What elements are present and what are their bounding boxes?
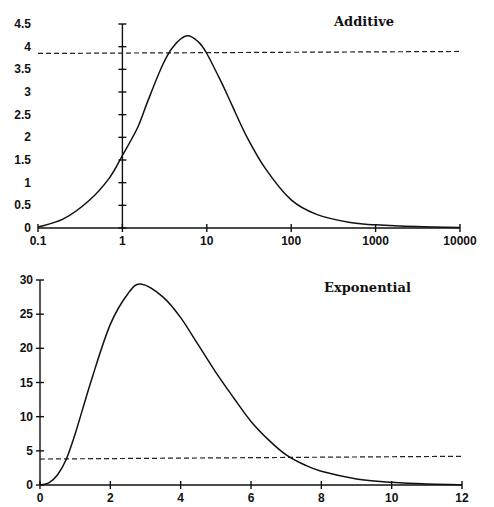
- additive-x-tick-label: 1000: [362, 234, 389, 248]
- exponential-y-tick-label: 10: [20, 410, 34, 424]
- additive-y-tick-label: 4: [24, 40, 31, 54]
- exponential-x-tick-label: 6: [248, 491, 255, 505]
- exponential-chart: 024681012051015202530 Exponential: [20, 273, 469, 505]
- additive-y-tick-label: 0.5: [14, 198, 31, 212]
- exponential-y-tick-label: 5: [26, 444, 33, 458]
- additive-y-tick-label: 0: [24, 221, 31, 235]
- additive-curve: [38, 36, 460, 228]
- exponential-x-tick-label: 2: [107, 491, 114, 505]
- exponential-curve: [40, 284, 462, 485]
- additive-title: Additive: [333, 14, 394, 29]
- exponential-axes: [40, 280, 462, 485]
- additive-y-tick-label: 2.5: [14, 108, 31, 122]
- exponential-y-tick-label: 15: [20, 376, 34, 390]
- exponential-x-tick-label: 0: [37, 491, 44, 505]
- additive-x-tick-label: 100: [281, 234, 301, 248]
- additive-x-tick-label: 1: [119, 234, 126, 248]
- additive-x-tick-label: 10000: [443, 234, 477, 248]
- additive-y-tick-label: 4.5: [14, 17, 31, 31]
- additive-axes: [38, 24, 460, 228]
- exponential-title: Exponential: [324, 280, 411, 295]
- additive-reference-line: [38, 51, 460, 53]
- exponential-x-tick-label: 10: [385, 491, 399, 505]
- additive-y-tick-label: 2: [24, 130, 31, 144]
- exponential-y-tick-label: 0: [26, 478, 33, 492]
- additive-y-tick-label: 1: [24, 176, 31, 190]
- charts-figure: 0.111010010001000000.511.522.533.544.5 A…: [0, 0, 494, 507]
- exponential-y-tick-label: 25: [20, 307, 34, 321]
- additive-chart: 0.111010010001000000.511.522.533.544.5 A…: [14, 14, 477, 248]
- exponential-y-tick-label: 20: [20, 341, 34, 355]
- additive-x-tick-label: 10: [200, 234, 214, 248]
- exponential-x-tick-label: 4: [177, 491, 184, 505]
- additive-x-tick-label: 0.1: [30, 234, 47, 248]
- additive-y-tick-label: 3: [24, 85, 31, 99]
- exponential-x-tick-label: 12: [455, 491, 469, 505]
- additive-y-tick-label: 3.5: [14, 62, 31, 76]
- exponential-y-tick-label: 30: [20, 273, 34, 287]
- exponential-ticks: 024681012051015202530: [20, 273, 469, 505]
- exponential-x-tick-label: 8: [318, 491, 325, 505]
- additive-y-tick-label: 1.5: [14, 153, 31, 167]
- exponential-reference-line: [40, 456, 462, 459]
